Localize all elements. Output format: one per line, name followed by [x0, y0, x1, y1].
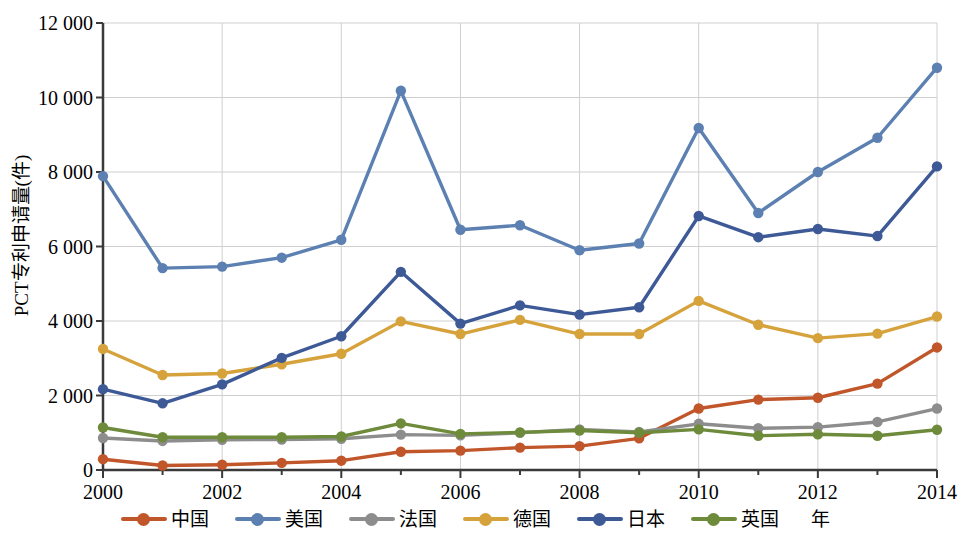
- data-point: [396, 86, 406, 96]
- data-point: [515, 427, 525, 437]
- data-point: [157, 263, 167, 273]
- data-point: [98, 344, 108, 354]
- data-point: [455, 329, 465, 339]
- x-axis-title: 年: [811, 510, 830, 529]
- data-point: [574, 441, 584, 451]
- legend-item-0[interactable]: 中国: [121, 510, 209, 529]
- series-layer: [98, 62, 942, 470]
- data-point: [515, 220, 525, 230]
- series-5: [98, 418, 942, 442]
- data-point: [396, 418, 406, 428]
- data-point: [813, 167, 823, 177]
- legend: 中国美国法国德国日本英国年: [0, 505, 950, 533]
- data-point: [98, 384, 108, 394]
- data-point: [98, 422, 108, 432]
- data-point: [217, 460, 227, 470]
- data-point: [277, 353, 287, 363]
- data-point: [396, 429, 406, 439]
- data-point: [932, 342, 942, 352]
- data-point: [515, 315, 525, 325]
- data-point: [872, 378, 882, 388]
- legend-label: 法国: [399, 510, 437, 529]
- x-tick-label: 2000: [68, 482, 138, 502]
- legend-item-5[interactable]: 英国: [691, 510, 779, 529]
- data-point: [813, 333, 823, 343]
- y-tick-label: 6 000: [15, 237, 93, 257]
- y-tick-label: 12 000: [15, 13, 93, 33]
- data-point: [396, 267, 406, 277]
- data-point: [277, 458, 287, 468]
- data-point: [455, 429, 465, 439]
- legend-label: 日本: [627, 510, 665, 529]
- data-point: [455, 318, 465, 328]
- data-point: [753, 232, 763, 242]
- data-point: [813, 224, 823, 234]
- data-point: [753, 431, 763, 441]
- data-point: [98, 433, 108, 443]
- gridlines: [103, 23, 937, 470]
- data-point: [396, 316, 406, 326]
- data-point: [217, 261, 227, 271]
- data-point: [634, 238, 644, 248]
- data-point: [932, 161, 942, 171]
- data-point: [455, 225, 465, 235]
- data-point: [694, 296, 704, 306]
- data-point: [277, 252, 287, 262]
- data-point: [217, 379, 227, 389]
- x-tick-label: 2014: [902, 482, 962, 502]
- data-point: [932, 311, 942, 321]
- legend-swatch-icon: [691, 511, 737, 527]
- legend-item-2[interactable]: 法国: [349, 510, 437, 529]
- data-point: [932, 425, 942, 435]
- x-tick-label: 2002: [187, 482, 257, 502]
- series-0: [98, 342, 942, 470]
- legend-item-3[interactable]: 德国: [463, 510, 551, 529]
- data-point: [932, 403, 942, 413]
- data-point: [694, 403, 704, 413]
- y-tick-label: 0: [15, 460, 93, 480]
- x-tick-label: 2004: [306, 482, 376, 502]
- data-point: [574, 425, 584, 435]
- data-point: [515, 300, 525, 310]
- legend-item-1[interactable]: 美国: [235, 510, 323, 529]
- data-point: [872, 328, 882, 338]
- series-1: [98, 62, 942, 273]
- data-point: [574, 245, 584, 255]
- data-point: [694, 123, 704, 133]
- data-point: [694, 211, 704, 221]
- data-point: [872, 417, 882, 427]
- data-point: [813, 429, 823, 439]
- y-tick-label: 2 000: [15, 386, 93, 406]
- x-tick-label: 2008: [545, 482, 615, 502]
- legend-item-4[interactable]: 日本: [577, 510, 665, 529]
- data-point: [872, 231, 882, 241]
- legend-swatch-icon: [349, 511, 395, 527]
- y-tick-label: 10 000: [15, 88, 93, 108]
- data-point: [277, 432, 287, 442]
- data-point: [98, 454, 108, 464]
- data-point: [336, 331, 346, 341]
- legend-swatch-icon: [235, 511, 281, 527]
- legend-swatch-icon: [463, 511, 509, 527]
- data-point: [694, 424, 704, 434]
- legend-label: 美国: [285, 510, 323, 529]
- data-point: [217, 432, 227, 442]
- legend-label: 德国: [513, 510, 551, 529]
- data-point: [98, 171, 108, 181]
- data-point: [336, 349, 346, 359]
- data-point: [157, 398, 167, 408]
- legend-swatch-icon: [121, 511, 167, 527]
- data-point: [336, 235, 346, 245]
- data-point: [634, 302, 644, 312]
- y-tick-label: 8 000: [15, 162, 93, 182]
- y-tick-label: 4 000: [15, 311, 93, 331]
- data-point: [455, 445, 465, 455]
- data-point: [157, 460, 167, 470]
- data-point: [634, 428, 644, 438]
- data-point: [753, 320, 763, 330]
- x-tick-label: 2012: [783, 482, 853, 502]
- data-point: [872, 133, 882, 143]
